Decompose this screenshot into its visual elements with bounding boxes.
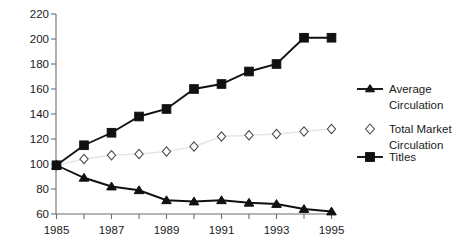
open-diamond-marker-icon xyxy=(135,149,143,158)
open-diamond-marker-icon xyxy=(107,151,115,160)
legend-entry-average-circulation[interactable]: Average Circulation xyxy=(357,83,443,111)
open-diamond-marker-icon xyxy=(366,124,375,134)
square-marker-icon xyxy=(327,33,336,42)
y-axis-labels: 220 200 180 160 140 120 100 80 60 xyxy=(30,8,49,220)
square-marker-icon xyxy=(217,80,226,89)
series-layer xyxy=(52,33,337,214)
square-marker-icon xyxy=(300,33,309,42)
legend-label: Circulation xyxy=(389,99,443,111)
open-diamond-marker-icon xyxy=(80,154,88,163)
square-marker-icon xyxy=(272,60,281,69)
y-tick-label: 60 xyxy=(36,208,49,220)
series-total-market-circulation xyxy=(52,124,335,169)
x-tick-label: 1985 xyxy=(44,224,70,236)
y-tick-label: 220 xyxy=(30,8,49,20)
square-marker-icon xyxy=(135,112,144,121)
open-diamond-marker-icon xyxy=(190,142,198,151)
legend: Average Circulation Total Market Circula… xyxy=(357,83,452,163)
y-tick-label: 120 xyxy=(30,133,49,145)
square-marker-icon xyxy=(366,153,375,162)
y-tick-label: 80 xyxy=(36,183,49,195)
square-marker-icon xyxy=(80,141,89,150)
series-average-circulation xyxy=(52,161,337,215)
x-tick-label: 1991 xyxy=(209,224,235,236)
x-axis xyxy=(56,214,333,219)
y-tick-label: 200 xyxy=(30,33,49,45)
legend-label: Average xyxy=(389,83,432,95)
x-tick-label: 1987 xyxy=(99,224,125,236)
y-tick-label: 180 xyxy=(30,58,49,70)
legend-label: Total Market xyxy=(389,123,452,135)
square-marker-icon xyxy=(107,128,116,137)
open-diamond-marker-icon xyxy=(327,124,335,133)
chart-canvas: 220 200 180 160 140 120 100 80 60 xyxy=(0,0,465,246)
y-tick-label: 100 xyxy=(30,158,49,170)
legend-entry-titles[interactable]: Titles xyxy=(357,151,416,163)
square-marker-icon xyxy=(162,105,171,114)
open-diamond-marker-icon xyxy=(245,131,253,140)
square-marker-icon xyxy=(190,85,199,94)
open-diamond-marker-icon xyxy=(272,129,280,138)
x-tick-label: 1993 xyxy=(264,224,290,236)
open-diamond-marker-icon xyxy=(300,127,308,136)
open-diamond-marker-icon xyxy=(217,132,225,141)
x-tick-label: 1995 xyxy=(319,224,345,236)
square-marker-icon xyxy=(245,67,254,76)
legend-label: Titles xyxy=(389,151,416,163)
y-tick-label: 160 xyxy=(30,83,49,95)
legend-entry-total-market-circulation[interactable]: Total Market Circulation xyxy=(366,123,453,151)
y-tick-label: 140 xyxy=(30,108,49,120)
open-diamond-marker-icon xyxy=(162,147,170,156)
x-tick-label: 1989 xyxy=(154,224,180,236)
x-axis-labels: 1985 1987 1989 1991 1993 1995 xyxy=(44,224,345,236)
line-chart: 220 200 180 160 140 120 100 80 60 xyxy=(0,0,465,246)
legend-label: Circulation xyxy=(389,139,443,151)
y-axis xyxy=(51,14,56,214)
